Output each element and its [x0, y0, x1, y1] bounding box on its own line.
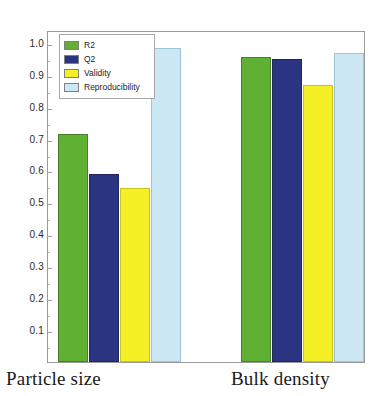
y-axis: 0.10.20.30.40.50.60.70.80.91.0 — [0, 0, 44, 396]
y-tick-label: 0.8 — [10, 103, 44, 113]
legend-item-validity: Validity — [64, 67, 150, 80]
category-label-particle-size: Particle size — [6, 368, 101, 390]
legend-label-r2: R2 — [84, 41, 95, 50]
legend-swatch-validity — [64, 69, 79, 78]
legend-item-reproducibility: Reproducibility — [64, 81, 150, 94]
y-tick-label: 1.0 — [10, 39, 44, 49]
y-tick-label: 0.2 — [10, 294, 44, 304]
bar-r2-group-1 — [241, 57, 271, 362]
y-tick-label: 0.3 — [10, 262, 44, 272]
legend-label-reproducibility: Reproducibility — [84, 83, 140, 92]
legend-swatch-q2 — [64, 55, 79, 64]
bar-reproducibility-group-0 — [151, 48, 181, 362]
bar-validity-group-1 — [303, 85, 333, 362]
category-label-bulk-density: Bulk density — [231, 368, 330, 390]
bar-reproducibility-group-1 — [334, 53, 364, 362]
legend: R2Q2ValidityReproducibility — [59, 34, 155, 99]
y-tick-label: 0.7 — [10, 135, 44, 145]
bar-q2-group-1 — [272, 59, 302, 362]
legend-swatch-reproducibility — [64, 83, 79, 92]
bar-r2-group-0 — [58, 134, 88, 362]
legend-label-validity: Validity — [84, 69, 111, 78]
plot-area: R2Q2ValidityReproducibility — [47, 31, 365, 363]
bar-q2-group-0 — [89, 174, 119, 362]
y-tick-label: 0.1 — [10, 326, 44, 336]
legend-label-q2: Q2 — [84, 55, 95, 64]
y-tick-label: 0.5 — [10, 198, 44, 208]
legend-item-r2: R2 — [64, 39, 150, 52]
y-tick-label: 0.4 — [10, 230, 44, 240]
bar-validity-group-0 — [120, 188, 150, 362]
y-tick-label: 0.6 — [10, 166, 44, 176]
legend-swatch-r2 — [64, 41, 79, 50]
legend-item-q2: Q2 — [64, 53, 150, 66]
bar-chart: 0.10.20.30.40.50.60.70.80.91.0 R2Q2Valid… — [0, 0, 389, 396]
y-tick-label: 0.9 — [10, 71, 44, 81]
